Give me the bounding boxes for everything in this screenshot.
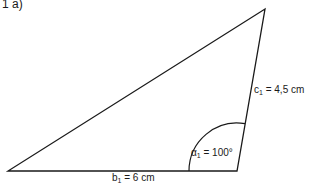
angle-alpha-value: = 100° xyxy=(203,147,232,158)
side-b-label: b1 = 6 cm xyxy=(112,172,155,185)
side-c-value: = 4,5 cm xyxy=(266,84,305,95)
angle-alpha-subscript: 1 xyxy=(197,152,201,159)
side-b-value: = 6 cm xyxy=(124,172,154,183)
angle-alpha-label: α1 = 100° xyxy=(191,147,233,162)
triangle-diagram: 1 a) b1 = 6 cm c1 = 4,5 cm α1 = 100° xyxy=(0,0,310,185)
side-b-subscript: 1 xyxy=(118,177,122,184)
side-c-label: c1 = 4,5 cm xyxy=(254,84,304,99)
part-label: 1 a) xyxy=(2,0,23,10)
side-c-subscript: 1 xyxy=(259,89,263,96)
